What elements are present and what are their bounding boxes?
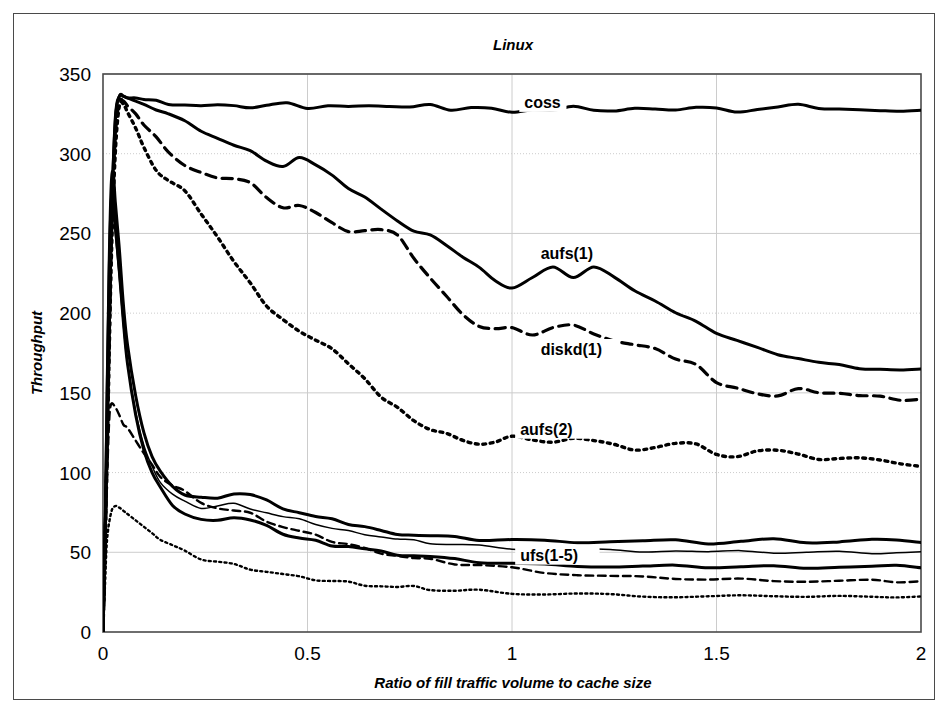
x-tick-label: 0 (98, 643, 109, 664)
series-label-ufs1-5: ufs(1-5) (520, 547, 578, 564)
series-label-coss: coss (524, 94, 561, 111)
y-tick-label: 0 (80, 622, 91, 643)
y-axis-label: Throughput (28, 310, 45, 395)
series-annotations: cossaufs(1)diskd(1)aufs(2)ufs(1-5) (515, 92, 620, 565)
chart-figure: 05010015020025030035000.511.52 cossaufs(… (0, 0, 950, 716)
throughput-line-chart: 05010015020025030035000.511.52 cossaufs(… (0, 0, 950, 716)
x-axis-label: Ratio of fill traffic volume to cache si… (374, 674, 651, 691)
y-tick-label: 300 (59, 144, 91, 165)
y-tick-label: 250 (59, 223, 91, 244)
x-tick-label: 1 (507, 643, 518, 664)
y-tick-label: 100 (59, 463, 91, 484)
y-tick-label: 350 (59, 64, 91, 85)
x-tick-label: 1.5 (703, 643, 729, 664)
x-tick-label: 0.5 (294, 643, 320, 664)
y-tick-label: 50 (70, 542, 91, 563)
series-label-aufs1: aufs(1) (541, 245, 593, 262)
y-tick-label: 200 (59, 303, 91, 324)
x-tick-label: 2 (916, 643, 927, 664)
series-label-diskd1: diskd(1) (541, 341, 602, 358)
series-label-aufs2: aufs(2) (520, 421, 572, 438)
y-tick-label: 150 (59, 383, 91, 404)
gridlines (103, 74, 921, 632)
chart-title: Linux (493, 36, 534, 53)
